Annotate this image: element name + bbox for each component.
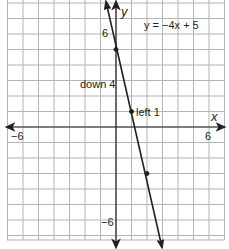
point-0-5	[114, 48, 118, 52]
x-axis-label: x	[210, 109, 218, 124]
x-tick-6-label: 6	[205, 130, 211, 142]
y-tick-neg6-label: −6	[101, 216, 114, 228]
y-axis-label: y	[120, 4, 129, 19]
function-line	[105, 1, 164, 249]
line-top-arrow-icon	[105, 1, 111, 10]
equation-label: y = −4x + 5	[144, 19, 199, 31]
line-bottom-arrow-icon	[157, 240, 163, 249]
down-4-annotation: down 4	[80, 78, 115, 90]
y-tick-6-label: 6	[102, 27, 108, 39]
line-y-neg4x-plus5	[107, 6, 161, 243]
coordinate-graph: y x y = −4x + 5 6 −6 −6 6 down 4 left 1	[0, 0, 229, 249]
point-1-1	[130, 110, 134, 114]
x-tick-neg6-label: −6	[11, 130, 24, 142]
point-2-neg3	[145, 172, 149, 176]
left-1-annotation: left 1	[136, 106, 160, 118]
